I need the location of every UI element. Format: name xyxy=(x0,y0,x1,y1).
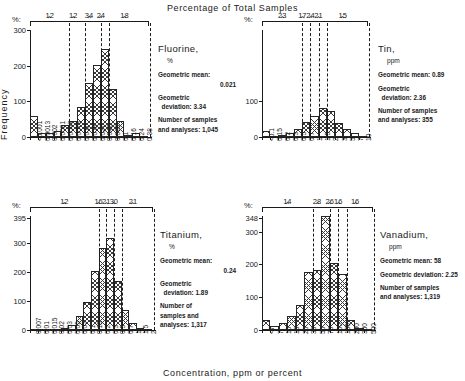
vanadium-x-tick-label: 100 xyxy=(336,323,343,334)
vanadium-x-tick xyxy=(304,330,305,333)
vanadium-sample-count: Number of samplesand analyses: 1,319 xyxy=(380,283,464,302)
vanadium-y-tick xyxy=(259,232,262,233)
vanadium-y-tick xyxy=(259,218,262,219)
vanadium-pct-brace: ⌃ xyxy=(284,203,291,209)
vanadium-x-tick-label: <7 xyxy=(268,326,275,334)
vanadium-bar xyxy=(321,216,329,330)
vanadium-x-tick-label: 50 xyxy=(319,327,326,334)
vanadium-panel-right-divider xyxy=(374,209,375,330)
vanadium-x-tick xyxy=(364,330,365,333)
vanadium-x-tick xyxy=(321,330,322,333)
vanadium-x-tick-label: 20 xyxy=(302,327,309,334)
vanadium-pct-brace: ⌃ xyxy=(314,203,321,209)
vanadium-x-tick xyxy=(279,330,280,333)
vanadium-bar xyxy=(330,263,338,330)
vanadium-bar xyxy=(338,274,346,330)
vanadium-y-axis xyxy=(262,216,263,331)
vanadium-y-tick-label: 0 xyxy=(234,326,258,335)
vanadium-group-divider xyxy=(347,209,348,330)
vanadium-y-tick-label: 300 xyxy=(234,227,258,236)
vanadium-x-tick-label: 70 xyxy=(327,327,334,334)
vanadium-x-tick-label: 30 xyxy=(310,327,317,334)
vanadium-x-tick-label: 10 xyxy=(285,327,292,334)
vanadium-y-tick-label: 200 xyxy=(234,260,258,269)
vanadium-x-tick xyxy=(296,330,297,333)
vanadium-group-divider xyxy=(313,209,314,330)
vanadium-group-divider xyxy=(330,209,331,330)
vanadium-pct-symbol: %: xyxy=(244,201,253,210)
vanadium-info-block: Vanadium,ppmGeometric mean: 58Geometric … xyxy=(380,228,464,305)
panel-vanadium: 0100200300348<77101520305070100150200300… xyxy=(0,0,465,381)
vanadium-x-tick xyxy=(330,330,331,333)
vanadium-x-tick xyxy=(287,330,288,333)
figure-canvas: Percentage of Total Samples Frequency Co… xyxy=(0,0,465,381)
vanadium-y-tick xyxy=(259,297,262,298)
vanadium-pct-brace: ⌃ xyxy=(352,203,359,209)
vanadium-geometric-mean: Geometric mean: 58 xyxy=(380,256,464,265)
vanadium-group-divider xyxy=(338,209,339,330)
vanadium-y-tick-label: 100 xyxy=(234,293,258,302)
vanadium-pct-brace: ⌃ xyxy=(335,203,342,209)
vanadium-x-tick-label: 300 xyxy=(361,323,368,334)
vanadium-x-tick xyxy=(338,330,339,333)
vanadium-bar xyxy=(313,270,321,330)
vanadium-element-unit: ppm xyxy=(389,242,464,252)
vanadium-element-name: Vanadium, xyxy=(380,228,464,242)
vanadium-x-tick xyxy=(355,330,356,333)
vanadium-pct-bracket-end xyxy=(262,207,263,212)
vanadium-bar xyxy=(304,272,312,330)
vanadium-x-tick xyxy=(270,330,271,333)
vanadium-x-tick xyxy=(313,330,314,333)
vanadium-x-tick xyxy=(347,330,348,333)
vanadium-x-tick-label: 7 xyxy=(277,330,284,334)
vanadium-geometric-deviation: Geometric deviation: 2.25 xyxy=(380,270,464,279)
vanadium-pct-bracket-end xyxy=(372,207,373,212)
vanadium-pct-brace: ⌃ xyxy=(326,203,333,209)
vanadium-x-tick-label: 150 xyxy=(344,323,351,334)
vanadium-x-tick-label: 200 xyxy=(353,323,360,334)
vanadium-x-tick xyxy=(262,330,263,333)
vanadium-y-tick xyxy=(259,264,262,265)
vanadium-y-max-label: 348 xyxy=(232,214,258,223)
vanadium-x-tick-label: 15 xyxy=(293,327,300,334)
